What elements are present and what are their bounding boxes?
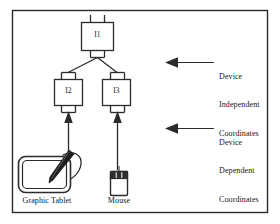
figure-canvas: I1 I2 I3 Device Independent Coordinates … xyxy=(0,0,280,224)
device-dependent-line-2: Dependent xyxy=(219,166,259,175)
device-independent-line-2: Independent xyxy=(219,100,260,109)
graphic-tablet-label: Graphic Tablet xyxy=(16,196,78,205)
node-label-I2: I2 xyxy=(54,87,83,96)
node-label-I1: I1 xyxy=(81,31,114,40)
device-dependent-label: Device Dependent Coordinates xyxy=(219,119,259,223)
device-dependent-line-3: Coordinates xyxy=(219,195,259,204)
device-dependent-line-1: Device xyxy=(219,138,259,147)
mouse-label: Mouse xyxy=(103,196,135,205)
device-independent-line-1: Device xyxy=(219,72,260,81)
node-label-I3: I3 xyxy=(102,87,131,96)
